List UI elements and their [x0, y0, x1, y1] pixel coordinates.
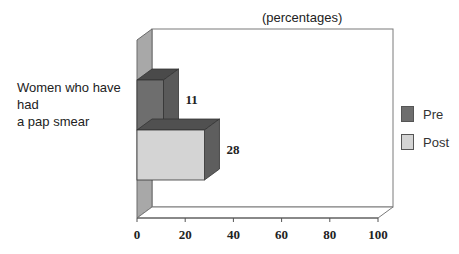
data-label-pre: 11: [186, 92, 198, 107]
bar-front-post: [137, 130, 204, 180]
data-label-post: 28: [226, 142, 240, 157]
x-tick-label: 40: [227, 227, 240, 242]
category-label: Women who have had a pap smear: [17, 79, 137, 130]
x-axis-ticks: 020406080100: [134, 218, 388, 242]
legend: Pre Post: [401, 100, 449, 156]
x-tick-label: 100: [368, 227, 388, 242]
legend-label-post: Post: [423, 135, 449, 150]
x-tick-label: 80: [323, 227, 336, 242]
x-tick-label: 60: [275, 227, 288, 242]
chart-area: 1128 020406080100 (percentages) Women wh…: [0, 0, 459, 254]
x-tick-label: 0: [134, 227, 141, 242]
chart-title: (percentages): [262, 10, 342, 25]
category-label-line1: Women who have had: [17, 79, 137, 113]
floor: [137, 207, 393, 218]
legend-label-pre: Pre: [423, 107, 443, 122]
x-tick-label: 20: [179, 227, 192, 242]
legend-swatch-post: [401, 134, 414, 150]
legend-item-post: Post: [401, 128, 449, 156]
category-label-line2: a pap smear: [17, 113, 137, 130]
legend-item-pre: Pre: [401, 100, 449, 128]
legend-swatch-pre: [401, 106, 414, 122]
bar-side-post: [204, 119, 219, 180]
